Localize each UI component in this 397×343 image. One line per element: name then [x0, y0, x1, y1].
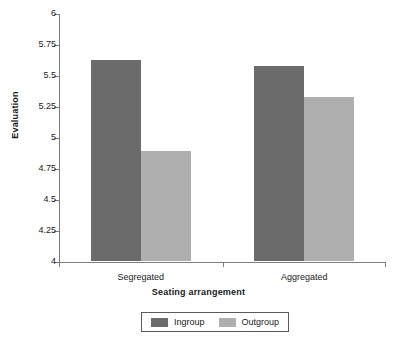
bar: [141, 151, 191, 261]
legend: IngroupOutgroup: [141, 312, 289, 332]
x-category-label: Segregated: [59, 272, 223, 282]
y-tick-label: 4.5: [43, 194, 56, 204]
bar: [254, 66, 304, 261]
y-tick-label: 5.75: [38, 39, 56, 49]
legend-item: Outgroup: [219, 317, 280, 327]
y-axis-line: [59, 14, 60, 263]
y-tick-label: 6: [51, 8, 56, 18]
legend-label: Ingroup: [174, 317, 205, 327]
x-tick-mark: [59, 262, 60, 267]
y-tick-label: 4: [51, 256, 56, 266]
bar: [91, 60, 141, 261]
x-axis-title: Seating arrangement: [0, 287, 397, 297]
y-axis-title: Evaluation: [10, 70, 20, 160]
legend-swatch-icon: [151, 318, 168, 327]
plot-area: 44.254.54.7555.255.55.756 SegregatedAggr…: [59, 14, 386, 262]
chart-figure: Evaluation 44.254.54.7555.255.55.756 Seg…: [0, 0, 397, 343]
x-tick-mark: [385, 262, 386, 267]
bar: [304, 97, 354, 261]
x-category-label: Aggregated: [223, 272, 387, 282]
y-tick-label: 5: [51, 132, 56, 142]
legend-swatch-icon: [219, 318, 236, 327]
y-tick-label: 5.5: [43, 70, 56, 80]
y-tick-label: 4.75: [38, 163, 56, 173]
legend-label: Outgroup: [242, 317, 280, 327]
legend-item: Ingroup: [151, 317, 205, 327]
y-tick-label: 4.25: [38, 225, 56, 235]
x-tick-mark: [223, 262, 224, 267]
y-tick-label: 5.25: [38, 101, 56, 111]
